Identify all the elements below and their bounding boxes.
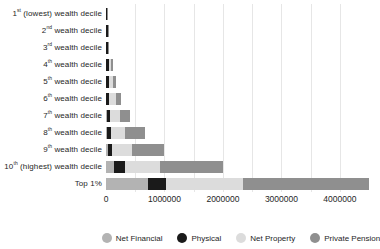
row-label-text: wealth decile: [52, 128, 102, 137]
legend-item-private-pension: Private Pension: [310, 233, 380, 243]
bar-segment-private-pension: [120, 110, 131, 122]
bar-segment-private-pension: [111, 59, 113, 71]
bar-track: [106, 161, 375, 173]
x-tick-label: 3000000: [265, 194, 298, 204]
bar-segment-physical: [148, 178, 166, 190]
bar-row: 1st (lowest) wealth decile: [0, 5, 378, 22]
bar-segment-net-property: [112, 144, 132, 156]
row-label: 7th wealth decile: [0, 111, 106, 120]
legend-swatch-private-pension: [310, 233, 320, 243]
bar-track: [106, 127, 375, 139]
legend-swatch-net-property: [236, 233, 246, 243]
legend-item-physical: Physical: [177, 233, 221, 243]
row-label: 8th wealth decile: [0, 128, 106, 137]
x-tick-label: 4000000: [323, 194, 356, 204]
legend-swatch-physical: [177, 233, 187, 243]
bar-track: [106, 110, 375, 122]
legend-swatch-net-financial: [102, 233, 112, 243]
legend-label: Physical: [191, 234, 221, 243]
row-label-text: wealth decile: [52, 111, 102, 120]
x-axis: 01000000200000030000004000000: [106, 192, 375, 205]
bar-track: [106, 144, 375, 156]
row-label: 1st (lowest) wealth decile: [0, 9, 106, 18]
bar-track: [106, 93, 375, 105]
row-label-text: wealth decile: [52, 94, 102, 103]
row-label: 2nd wealth decile: [0, 26, 106, 35]
bar-segment-private-pension: [116, 93, 121, 105]
bar-segment-physical: [114, 161, 125, 173]
row-label: Top 1%: [0, 179, 106, 188]
bar-segment-net-property: [125, 161, 160, 173]
row-label-text: (highest) wealth decile: [18, 162, 102, 171]
row-label: 5th wealth decile: [0, 77, 106, 86]
bar-row: 4th wealth decile: [0, 56, 378, 73]
row-label-text: wealth decile: [52, 60, 102, 69]
x-tick-label: 0: [104, 194, 109, 204]
legend-item-net-property: Net Property: [236, 233, 295, 243]
bar-row: 6th wealth decile: [0, 90, 378, 107]
bar-segment-net-property: [110, 110, 119, 122]
bar-row: 2nd wealth decile: [0, 22, 378, 39]
bar-segment-private-pension: [125, 127, 145, 139]
bar-segment-net-financial: [106, 161, 114, 173]
bar-row: 7th wealth decile: [0, 107, 378, 124]
row-label: 4th wealth decile: [0, 60, 106, 69]
bar-track: [106, 42, 375, 54]
bar-row: 3rd wealth decile: [0, 39, 378, 56]
x-tick-label: 2000000: [206, 194, 239, 204]
legend: Net FinancialPhysicalNet PropertyPrivate…: [104, 233, 378, 243]
legend-item-net-financial: Net Financial: [102, 233, 163, 243]
bar-track: [106, 25, 375, 37]
row-label-text: wealth decile: [52, 145, 102, 154]
row-label: 6th wealth decile: [0, 94, 106, 103]
bar-row: Top 1%: [0, 175, 378, 192]
bar-segment-net-property: [111, 127, 126, 139]
chart-rows: 1st (lowest) wealth decile2nd wealth dec…: [0, 0, 378, 192]
bar-segment-private-pension: [108, 25, 109, 37]
bar-track: [106, 76, 375, 88]
row-label-text: wealth decile: [52, 43, 102, 52]
legend-label: Private Pension: [324, 234, 380, 243]
bar-segment-private-pension: [160, 161, 223, 173]
bar-row: 5th wealth decile: [0, 73, 378, 90]
bar-row: 9th wealth decile: [0, 141, 378, 158]
bar-segment-net-property: [166, 178, 244, 190]
row-label-text: (lowest) wealth decile: [21, 9, 102, 18]
legend-label: Net Financial: [116, 234, 163, 243]
bar-segment-private-pension: [108, 42, 109, 54]
bar-row: 8th wealth decile: [0, 124, 378, 141]
bar-row: 10th (highest) wealth decile: [0, 158, 378, 175]
row-label-text: Top 1%: [75, 179, 102, 188]
bar-track: [106, 178, 375, 190]
row-label-text: wealth decile: [52, 77, 102, 86]
row-label: 9th wealth decile: [0, 145, 106, 154]
bar-segment-net-financial: [106, 178, 148, 190]
row-label-text: wealth decile: [52, 26, 102, 35]
row-label: 3rd wealth decile: [0, 43, 106, 52]
bar-track: [106, 59, 375, 71]
bar-segment-private-pension: [113, 76, 116, 88]
bar-track: [106, 8, 375, 20]
legend-label: Net Property: [250, 234, 295, 243]
x-tick-label: 1000000: [148, 194, 181, 204]
bar-segment-private-pension: [132, 144, 164, 156]
row-label: 10th (highest) wealth decile: [0, 162, 106, 171]
bar-segment-private-pension: [243, 178, 368, 190]
